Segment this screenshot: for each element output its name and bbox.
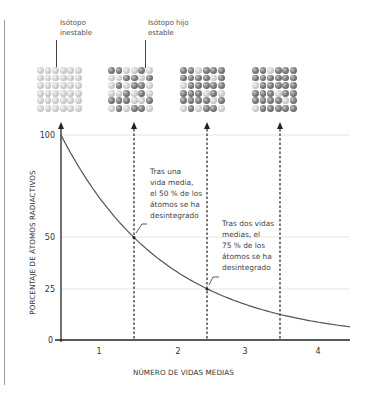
- annotation-2-leader: [209, 277, 219, 285]
- y-axis-arrow-icon: [58, 122, 64, 129]
- x-tick-4: 4: [315, 347, 320, 356]
- point-50-percent: [133, 236, 136, 239]
- decay-curve: [61, 135, 350, 327]
- annotation-1-line: Tras una: [150, 166, 202, 177]
- x-tick-2: 2: [175, 347, 180, 356]
- arrow-up-icon: [131, 122, 137, 129]
- point-25-percent: [206, 288, 209, 291]
- annotation-one-half-life: Tras una vida media, el 50 % de los átom…: [150, 166, 202, 221]
- annotation-1-line: vida media,: [150, 177, 202, 188]
- y-tick-100: 100: [40, 131, 55, 140]
- annotation-1-line: el 50 % de los: [150, 188, 202, 199]
- annotation-2-line: Tras dos vidas: [222, 218, 274, 229]
- y-tick-0: 0: [48, 336, 53, 345]
- half-life-2-marker: [204, 122, 210, 340]
- annotation-2-line: desintegrado: [222, 262, 274, 273]
- y-tick-25: 25: [45, 285, 55, 294]
- y-axis-title: PORCENTAJE DE ÁTOMOS RADIACTIVOS: [28, 160, 37, 325]
- y-tick-50: 50: [45, 233, 55, 242]
- annotation-1-line: desintegrado: [150, 210, 202, 221]
- annotation-two-half-lives: Tras dos vidas medias, el 75 % de los át…: [222, 218, 274, 273]
- annotation-2-line: átomos se ha: [222, 251, 274, 262]
- x-axis-title: NÚMERO DE VIDAS MEDIAS: [0, 368, 367, 377]
- arrow-up-icon: [204, 122, 210, 129]
- half-life-3-marker: [277, 122, 283, 340]
- x-tick-3: 3: [242, 347, 247, 356]
- arrow-up-icon: [277, 122, 283, 129]
- annotation-2-line: medias, el: [222, 229, 274, 240]
- annotation-2-line: 75 % de los: [222, 240, 274, 251]
- annotation-1-leader: [136, 224, 147, 233]
- half-life-1-marker: [131, 122, 137, 340]
- x-tick-1: 1: [96, 347, 101, 356]
- annotation-1-line: átomos se ha: [150, 199, 202, 210]
